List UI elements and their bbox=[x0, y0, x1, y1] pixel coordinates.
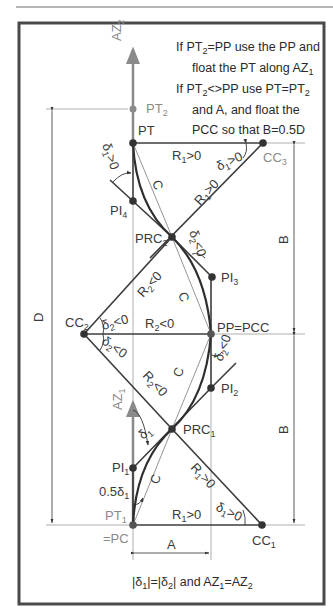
cc3-label: CC3 bbox=[263, 150, 287, 167]
alignment-diagram: If PT2=PP use the PP and float the PT al… bbox=[0, 0, 333, 616]
point-pi2 bbox=[207, 384, 215, 392]
cc2-label: CC2 bbox=[65, 315, 89, 332]
delta1-cc1-label: δ1>0 bbox=[213, 499, 245, 526]
svg-text:float the PT along AZ1: float the PT along AZ1 bbox=[192, 61, 314, 77]
chord-label-3: C bbox=[170, 365, 187, 379]
point-pi3 bbox=[208, 273, 216, 281]
r1-diag-top-label: R1>0 bbox=[191, 176, 223, 209]
dim-a-label: A bbox=[167, 537, 176, 552]
point-cc1 bbox=[258, 521, 266, 529]
r1-diag-bot-label: R1>0 bbox=[186, 460, 218, 493]
half-delta1-label: 0.5δ1 bbox=[99, 484, 129, 501]
delta2-pp-label: δ2<0 bbox=[211, 332, 236, 363]
r1-top-label: R1>0 bbox=[172, 148, 201, 165]
prc1-label: PRC1 bbox=[183, 422, 215, 439]
pt2-label: PT2 bbox=[146, 101, 168, 118]
pc-label: =PC bbox=[103, 531, 129, 546]
delta1-prc1-label: δ1 bbox=[135, 423, 155, 444]
chord-label-2: C bbox=[175, 290, 192, 304]
point-pi1 bbox=[129, 464, 137, 472]
chord-label-1: C bbox=[149, 178, 166, 192]
delta1-top-right-label: δ1>0 bbox=[214, 149, 246, 176]
point-pt1 bbox=[129, 521, 137, 529]
point-pt bbox=[129, 139, 137, 147]
footer-note: |δ1|=|δ2| and AZ1=AZ2 bbox=[132, 575, 253, 591]
pi1-label: PI1 bbox=[112, 460, 129, 477]
pi3-label: PI3 bbox=[221, 270, 238, 287]
point-pi4 bbox=[129, 197, 137, 205]
point-cc3 bbox=[259, 139, 267, 147]
dim-d-label: D bbox=[31, 313, 46, 322]
r2-mid-label: R2<0 bbox=[145, 316, 174, 333]
svg-text:PCC so that B=0.5D: PCC so that B=0.5D bbox=[192, 123, 305, 137]
r2-diag-bot-label: R2<0 bbox=[138, 368, 170, 401]
instruction-note: If PT2=PP use the PP and float the PT al… bbox=[176, 40, 320, 137]
r1-bot-label: R1>0 bbox=[172, 507, 201, 524]
dim-b-top-label: B bbox=[276, 235, 291, 244]
svg-text:If PT2<>PP use PT=PT2: If PT2<>PP use PT=PT2 bbox=[176, 82, 310, 98]
az1-label: AZ1 bbox=[110, 388, 127, 410]
delta2-cc2-down-label: δ2<0 bbox=[98, 333, 130, 362]
pt-label: PT bbox=[138, 123, 155, 138]
point-pt2 bbox=[130, 106, 137, 113]
point-prc2 bbox=[168, 233, 176, 241]
pt1-label: PT1 bbox=[105, 508, 127, 525]
point-prc1 bbox=[168, 425, 176, 433]
pi2-label: PI2 bbox=[221, 381, 238, 398]
point-pp bbox=[207, 330, 215, 338]
svg-text:and A, and float the: and A, and float the bbox=[192, 103, 300, 117]
dim-b-bot-label: B bbox=[276, 425, 291, 434]
point-labels: AZ2 PT2 PT CC3 PI4 PRC2 PI3 CC2 PP=PCC P… bbox=[65, 19, 287, 550]
pp-label: PP=PCC bbox=[217, 320, 269, 335]
pi4-label: PI4 bbox=[110, 203, 127, 220]
delta2-prc2-label: δ2<0 bbox=[184, 228, 209, 259]
prc2-label: PRC2 bbox=[135, 231, 167, 248]
delta2-cc2-up-label: δ2<0 bbox=[100, 311, 131, 334]
svg-text:If PT2=PP use the PP and: If PT2=PP use the PP and bbox=[176, 40, 320, 56]
cc1-label: CC1 bbox=[252, 533, 276, 550]
delta1-top-left-label: δ1>0 bbox=[97, 141, 122, 172]
